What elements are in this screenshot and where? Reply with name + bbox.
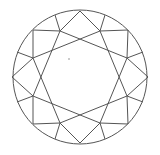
facet-line xyxy=(127,96,143,102)
facet-line xyxy=(127,30,128,58)
facet-line xyxy=(100,30,128,31)
facet-line xyxy=(60,11,80,31)
facet-line xyxy=(127,52,143,58)
facet-line xyxy=(17,96,33,102)
facet-line xyxy=(100,123,128,124)
facet-line xyxy=(100,15,105,31)
dot-mark xyxy=(68,58,70,60)
facet-lines xyxy=(12,11,148,143)
facet-line xyxy=(127,96,128,124)
table-star-square-a xyxy=(33,31,127,123)
facet-line xyxy=(33,123,60,124)
table-star-square-b xyxy=(33,31,127,123)
facet-line xyxy=(60,123,80,143)
facet-line xyxy=(33,30,60,31)
facet-line xyxy=(55,123,60,139)
facet-line xyxy=(100,123,105,139)
facet-line xyxy=(17,52,33,58)
center-mark xyxy=(68,58,70,60)
diamond-facet-drawing xyxy=(0,0,160,155)
diamond-diagram xyxy=(0,0,160,155)
facet-line xyxy=(55,15,60,31)
facet-line xyxy=(80,123,100,143)
facet-line xyxy=(80,11,100,31)
